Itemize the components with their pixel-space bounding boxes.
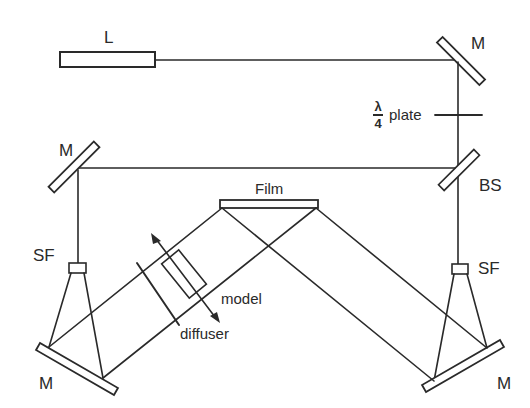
spatial-filter-left xyxy=(69,263,86,273)
reference-beam-edge-2 xyxy=(316,208,487,348)
film-label: Film xyxy=(255,181,283,196)
lambda-symbol: λ xyxy=(374,100,381,113)
holography-setup-diagram xyxy=(0,0,530,408)
diffuser-label: diffuser xyxy=(180,326,229,341)
spatial-filter-right xyxy=(452,264,468,274)
mirror-top-right-label: M xyxy=(471,35,485,52)
quarter-wave-plate-label: plate xyxy=(389,107,422,122)
beam-splitter xyxy=(438,149,479,190)
object-beam-edge-2 xyxy=(103,208,316,378)
mirror-bottom-left-label: M xyxy=(39,375,53,392)
mirror-bottom-right-label: M xyxy=(497,375,511,392)
mirror-left xyxy=(49,142,100,193)
spatial-filter-left-label: SF xyxy=(33,247,55,264)
laser xyxy=(60,52,155,67)
mirror-left-label: M xyxy=(59,142,73,159)
mirror-bottom-right xyxy=(422,340,504,392)
model-label: model xyxy=(221,291,262,306)
film-plate xyxy=(220,200,318,208)
quarter-wave-fraction: λ 4 xyxy=(373,100,383,130)
model xyxy=(162,250,207,298)
spatial-filter-right-label: SF xyxy=(478,260,500,277)
laser-label: L xyxy=(104,29,113,46)
beam-splitter-label: BS xyxy=(479,177,502,194)
fraction-denominator: 4 xyxy=(374,117,381,130)
